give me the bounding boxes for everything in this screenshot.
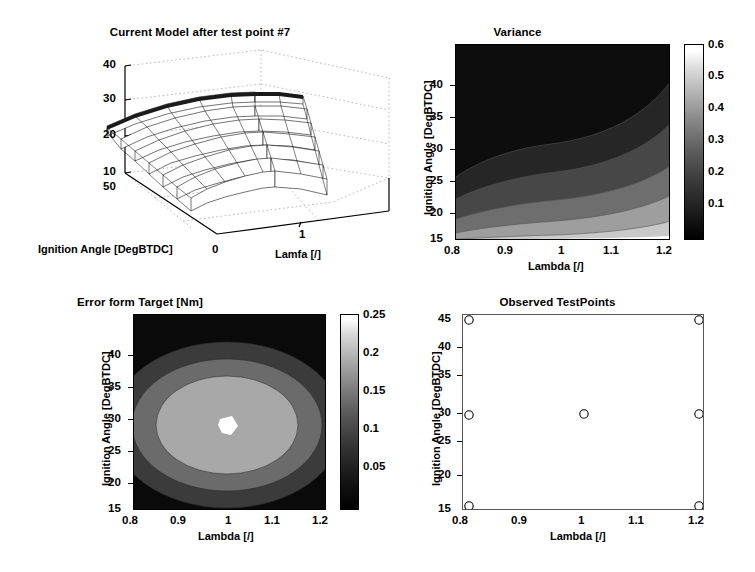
surface-3d-canvas [95,48,390,238]
error-cbar-tick-0-15: 0.15 [363,384,385,396]
variance-y-tick-15: 15 [430,232,443,244]
variance-cbar-tick-0-1: 0.1 [708,197,724,209]
chart-title-testpoints: Observed TestPoints [380,296,735,308]
tp-x-axis-label: Lambda [/] [550,530,606,542]
error-x-axis-label: Lambda [/] [198,530,254,542]
scatter-point [465,502,473,510]
variance-x-tick-1: 1 [558,244,564,256]
error-cbar-tick-0-1: 0.1 [363,422,379,434]
z-tick-10: 10 [103,165,116,177]
error-cbar-tick-0-05: 0.05 [363,460,385,472]
error-x-tick-0-8: 0.8 [122,514,138,526]
x-tick-0: 0 [212,243,218,255]
scatter-marker-group [465,316,703,510]
z-tick-40: 40 [103,58,116,70]
variance-cbar-tick-0-5: 0.5 [708,69,724,81]
tp-x-tick-0-9: 0.9 [511,514,527,526]
variance-cbar-tick-0-6: 0.6 [708,38,724,50]
y-axis-label-lamfa: Lamfa [/] [275,248,321,260]
tp-x-tick-1-2: 1.2 [688,514,704,526]
tp-y-tick-45: 45 [438,312,451,324]
tp-y-axis-label: Ignition Angle [DegBTDC] [430,351,442,486]
variance-x-axis-label: Lambda [/] [528,260,584,272]
variance-cbar-tick-0-4: 0.4 [708,101,724,113]
y-tick-1: 1 [299,228,305,240]
x-axis-label-ignition-angle: Ignition Angle [DegBTDC] [38,243,173,255]
variance-cbar-tick-0-3: 0.3 [708,133,724,145]
error-x-tick-1-2: 1.2 [312,514,328,526]
testpoints-plot-area [462,314,704,510]
scatter-point [695,502,703,510]
error-x-tick-1: 1 [225,514,231,526]
variance-plot-area [455,44,670,240]
error-contour-svg [134,315,326,510]
variance-cbar-tick-0-2: 0.2 [708,165,724,177]
error-plot-area [133,314,326,510]
panel-error-from-target: Error form Target [Nm] 40 35 30 25 20 15… [0,286,400,572]
variance-x-tick-1-2: 1.2 [656,244,672,256]
variance-y-axis-label: Ignition Angle [DegBTDC] [422,80,434,215]
error-colorbar [340,314,359,510]
scatter-point [465,411,473,419]
tp-y-tick-15: 15 [438,502,451,514]
error-y-axis-label: Ignition Angle [DegBTDC] [100,351,112,486]
tp-x-tick-1-1: 1.1 [628,514,644,526]
scatter-point [580,410,588,418]
panel-current-model: Current Model after test point #7 [0,0,400,286]
chart-title-error: Error form Target [Nm] [0,296,340,308]
testpoints-scatter-svg [463,315,704,510]
error-cbar-tick-0-25: 0.25 [363,308,385,320]
y-tick-50: 50 [103,180,116,192]
variance-contour-svg [456,45,670,240]
scatter-point [465,316,473,324]
panel-variance: Variance 40 35 30 25 20 15 0.8 0.9 [400,0,755,286]
error-y-tick-15: 15 [108,502,121,514]
variance-x-tick-0-8: 0.8 [444,244,460,256]
panel-observed-testpoints: Observed TestPoints 45 40 35 30 25 20 15… [400,286,755,572]
z-tick-30: 30 [103,92,116,104]
tp-x-tick-0-8: 0.8 [452,514,468,526]
z-tick-20: 20 [103,128,116,140]
error-cbar-tick-0-2: 0.2 [363,346,379,358]
tp-x-tick-1: 1 [578,514,584,526]
scatter-point [695,410,703,418]
chart-title-variance: Variance [340,26,695,38]
error-x-tick-0-9: 0.9 [170,514,186,526]
variance-x-tick-1-1: 1.1 [603,244,619,256]
scatter-point [695,316,703,324]
variance-colorbar [684,44,704,240]
variance-x-tick-0-9: 0.9 [497,244,513,256]
error-x-tick-1-1: 1.1 [264,514,280,526]
